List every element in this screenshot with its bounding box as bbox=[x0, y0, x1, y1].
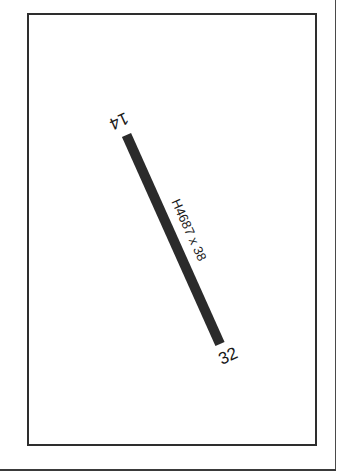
runway-end-label-14: 14 bbox=[106, 108, 131, 133]
runway-diagram: 14 32 H4687 x 38 bbox=[0, 0, 338, 474]
runway-strip bbox=[127, 135, 221, 344]
runway-end-label-32: 32 bbox=[215, 343, 240, 368]
